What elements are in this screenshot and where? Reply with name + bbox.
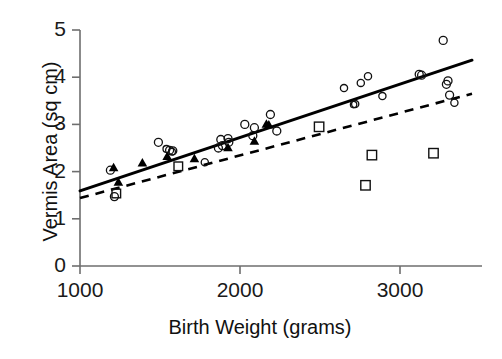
open-square-markers — [112, 122, 438, 198]
solid-regression-line — [80, 60, 472, 191]
x-axis-ticks — [80, 266, 400, 274]
chart-figure: 5 4 3 2 1 0 1000 2000 3000 Birth Weight … — [0, 0, 502, 359]
x-tick-label-1000: 1000 — [35, 278, 125, 302]
x-tick-label-3000: 3000 — [355, 278, 445, 302]
regression-lines — [80, 60, 472, 198]
y-axis-title: Vermis Area (sq cm) — [39, 22, 62, 282]
dashed-regression-line — [80, 94, 472, 198]
scatter-plot-canvas — [0, 0, 502, 359]
x-axis-title: Birth Weight (grams) — [95, 316, 425, 339]
axes-group — [80, 30, 482, 266]
x-tick-label-2000: 2000 — [195, 278, 285, 302]
y-axis-ticks — [72, 30, 80, 266]
